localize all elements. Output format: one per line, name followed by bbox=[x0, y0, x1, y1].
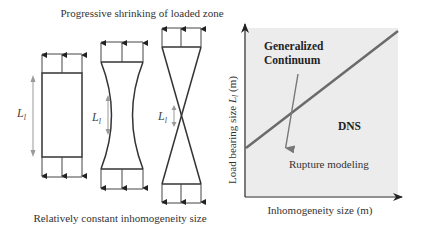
length-label-2: Ll bbox=[91, 110, 102, 126]
left-panel-caption: Relatively constant inhomogeneity size bbox=[33, 212, 206, 224]
region-label-continuum: Continuum bbox=[264, 54, 321, 66]
arrow-label-rupture: Rupture modeling bbox=[289, 158, 369, 170]
y-axis-label: Load bearing size Ll (m) bbox=[226, 76, 240, 184]
specimen-necked: Ll bbox=[91, 42, 143, 189]
specimen-hourglass: Ll bbox=[157, 28, 201, 203]
left-panel-title: Progressive shrinking of loaded zone bbox=[60, 7, 223, 19]
length-label-3: Ll bbox=[157, 109, 168, 125]
regime-chart: Generalized Continuum DNS Rupture modeli… bbox=[226, 24, 402, 217]
specimen-rectangle: Ll bbox=[16, 54, 82, 177]
region-label-dns: DNS bbox=[338, 120, 361, 132]
length-label-1: Ll bbox=[16, 106, 27, 122]
region-label-generalized: Generalized bbox=[264, 40, 324, 52]
figure-canvas: Progressive shrinking of loaded zone Ll bbox=[0, 0, 425, 229]
x-axis-label: Inhomogeneity size (m) bbox=[267, 204, 372, 217]
